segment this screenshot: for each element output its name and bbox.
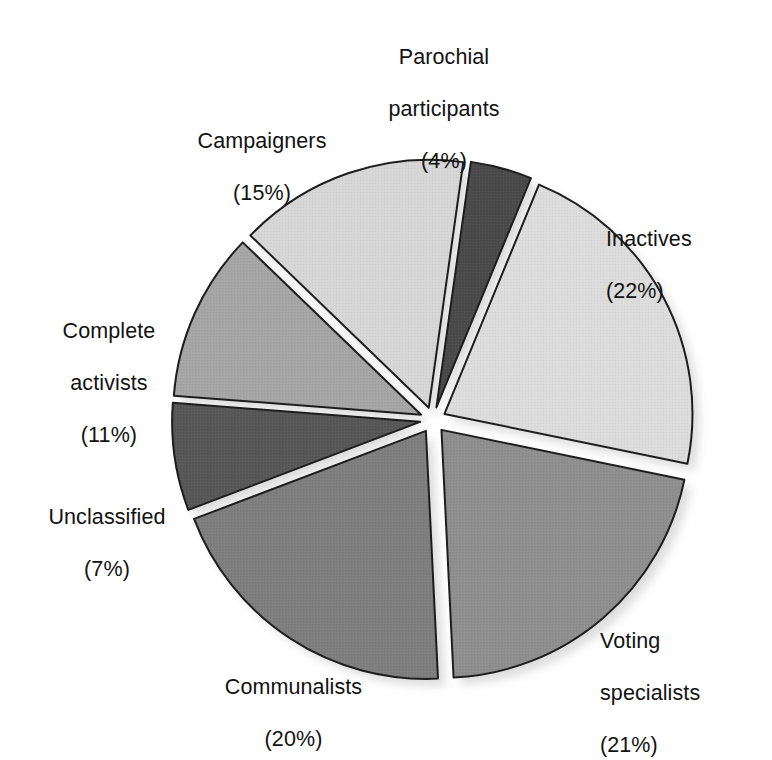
pie-label-campaigners-line1: Campaigners	[152, 128, 372, 154]
pie-label-inactives-percent: (22%)	[606, 278, 756, 304]
pie-label-voting-specialists: Voting specialists (21%)	[600, 602, 765, 760]
pie-label-inactives: Inactives (22%)	[606, 200, 756, 330]
pie-label-parochial-participants: Parochial participants (4%)	[349, 18, 539, 200]
pie-label-voting-specialists-percent: (21%)	[600, 732, 765, 758]
pie-label-complete-activists-line1: Complete	[24, 318, 194, 344]
pie-label-complete-activists-line2: activists	[24, 370, 194, 396]
pie-label-unclassified: Unclassified (7%)	[16, 478, 198, 608]
pie-label-unclassified-percent: (7%)	[16, 556, 198, 582]
pie-chart-figure: Parochial participants (4%) Inactives (2…	[0, 0, 772, 760]
pie-label-parochial-participants-line2: participants	[349, 96, 539, 122]
pie-label-campaigners: Campaigners (15%)	[152, 102, 372, 232]
pie-label-campaigners-percent: (15%)	[152, 180, 372, 206]
pie-label-communalists-line1: Communalists	[176, 674, 411, 700]
pie-label-parochial-participants-percent: (4%)	[349, 148, 539, 174]
pie-label-communalists: Communalists (20%)	[176, 648, 411, 760]
pie-label-unclassified-line1: Unclassified	[16, 504, 198, 530]
pie-label-voting-specialists-line2: specialists	[600, 680, 765, 706]
pie-label-complete-activists-percent: (11%)	[24, 422, 194, 448]
pie-label-voting-specialists-line1: Voting	[600, 628, 765, 654]
pie-label-communalists-percent: (20%)	[176, 726, 411, 752]
pie-label-inactives-line1: Inactives	[606, 226, 756, 252]
pie-label-complete-activists: Complete activists (11%)	[24, 292, 194, 474]
pie-label-parochial-participants-line1: Parochial	[349, 44, 539, 70]
